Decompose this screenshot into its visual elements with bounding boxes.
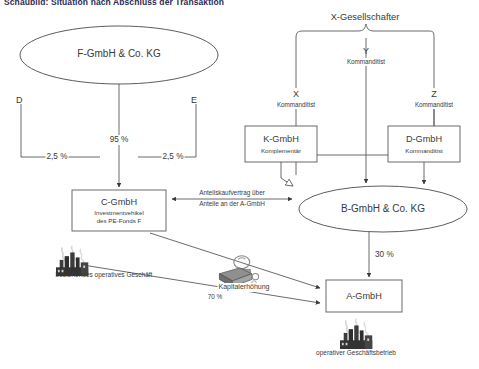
annotation-existing-business: bestehendes operatives Geschäft (56, 271, 153, 279)
edge-label-30-percent: 30 % (374, 250, 395, 260)
node-d-gmbh-role: Kommanditist (405, 147, 442, 154)
node-b-kg-label: B-GmbH & Co. KG (341, 203, 425, 216)
edge-label-share-purchase-line2: Anteile an der A-GmbH (198, 200, 266, 208)
edge-label-70-percent: 70 % (207, 293, 224, 301)
node-c-gmbh[interactable]: C-GmbH Investmentvehikel des PE-Fonds F (72, 190, 166, 231)
node-z-role: Kommanditist (414, 101, 454, 109)
annotation-operating-business: operativer Geschäftsbetrieb (316, 349, 396, 357)
edge-label-95-percent: 95 % (109, 135, 130, 145)
node-k-gmbh[interactable]: K-GmbH Komplementär (245, 126, 317, 162)
node-c-gmbh-name: C-GmbH (101, 197, 137, 208)
node-c-gmbh-role-line1: Investmentvehikel (94, 209, 144, 216)
node-x-role: Kommanditist (276, 101, 316, 109)
node-a-gmbh-label: A-GmbH (346, 291, 382, 303)
diagram-canvas (0, 0, 479, 369)
edge-d-to-c (21, 104, 100, 157)
brace-x-gesellschafter (296, 24, 434, 38)
edge-k-to-b (281, 162, 293, 186)
node-d-gmbh[interactable]: D-GmbH Kommanditist (388, 126, 460, 162)
node-y-role: Kommanditist (346, 58, 386, 66)
node-x-gesellschafter-label: X-Gesellschafter (331, 12, 400, 24)
node-d-gmbh-name: D-GmbH (406, 134, 442, 145)
factory-icon-bottom (340, 319, 372, 349)
node-d-label: D (16, 95, 23, 106)
edge-label-e-25-percent: 2,5 % (162, 152, 185, 162)
edge-label-share-purchase-line1: Anteilskaufvertrag über (198, 189, 266, 197)
node-f-kg-label: F-GmbH & Co. KG (77, 48, 160, 61)
node-k-gmbh-role: Komplementär (261, 147, 301, 154)
node-y-name: Y (363, 46, 369, 57)
edge-label-d-25-percent: 2,5 % (46, 152, 69, 162)
node-x-name: X (293, 89, 299, 100)
node-z-name: Z (431, 89, 437, 100)
node-e-label: E (191, 95, 197, 106)
node-c-gmbh-role-line2: des PE-Fonds F (97, 217, 142, 224)
edge-e-to-c (138, 104, 196, 157)
node-k-gmbh-name: K-GmbH (263, 134, 299, 145)
edge-label-capital-increase: Kapitalerhöhung (218, 283, 271, 292)
